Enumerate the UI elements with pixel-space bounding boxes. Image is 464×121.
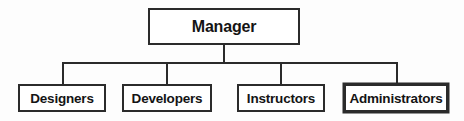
connector-drop-administrators xyxy=(396,63,398,84)
org-chart: Manager Designers Developers Instructors… xyxy=(0,0,464,121)
org-node-manager[interactable]: Manager xyxy=(148,8,300,45)
org-node-label: Instructors xyxy=(247,91,315,106)
org-node-label: Designers xyxy=(30,91,93,106)
connector-drop-designers xyxy=(62,63,64,84)
org-node-label: Developers xyxy=(132,91,203,106)
org-node-developers[interactable]: Developers xyxy=(122,84,212,112)
connector-drop-instructors xyxy=(280,63,282,84)
org-node-label: Administrators xyxy=(349,91,442,106)
connector-horizontal-bus xyxy=(62,62,398,64)
org-node-administrators[interactable]: Administrators xyxy=(344,84,448,112)
connector-root-stem xyxy=(223,45,225,63)
org-node-label: Manager xyxy=(192,18,256,36)
connector-drop-developers xyxy=(166,63,168,84)
org-node-designers[interactable]: Designers xyxy=(18,84,106,112)
org-node-instructors[interactable]: Instructors xyxy=(237,84,325,112)
